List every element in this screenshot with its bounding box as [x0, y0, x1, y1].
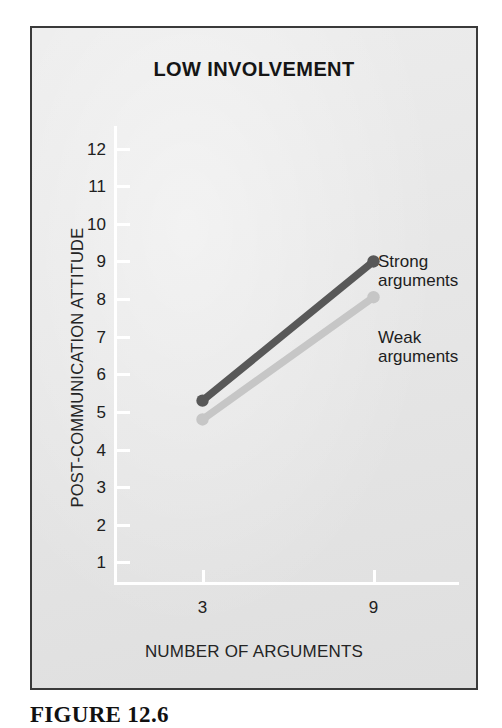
series-label-strong: Strong arguments [378, 252, 458, 290]
series-data-point [367, 291, 379, 303]
plot-area: 123456789101112 39 Strong arguments Weak… [114, 106, 462, 626]
chart-title: LOW INVOLVEMENT [32, 58, 476, 81]
figure-caption: FIGURE 12.6 [30, 702, 169, 728]
series-data-point [196, 413, 208, 425]
y-tick-label: 11 [66, 178, 106, 195]
series-data-point [196, 394, 208, 406]
y-axis-title: POST-COMMUNICATION ATTITUDE [68, 208, 87, 528]
y-tick-label: 1 [66, 554, 106, 571]
series-line [203, 261, 374, 400]
y-tick-label: 12 [66, 141, 106, 158]
series-line [203, 297, 374, 419]
figure-plate: LOW INVOLVEMENT POST-COMMUNICATION ATTIT… [30, 26, 478, 690]
series-label-weak: Weak arguments [378, 328, 458, 366]
x-axis-title: NUMBER OF ARGUMENTS [32, 642, 476, 662]
